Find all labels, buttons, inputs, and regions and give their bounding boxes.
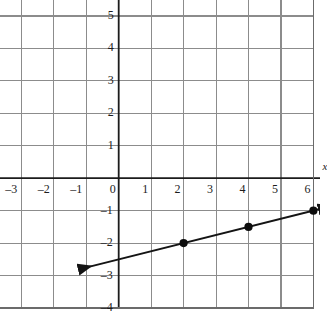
- x-tick-label--2: –2: [38, 183, 50, 195]
- x-tick-label-1: 1: [142, 183, 148, 195]
- x-tick-label--3: –3: [5, 183, 17, 195]
- y-tick-label--4: –4: [101, 301, 113, 313]
- x-tick-label-0: 0: [110, 183, 116, 195]
- x-axis-label: x: [322, 161, 327, 172]
- y-tick-label--1: –1: [101, 204, 113, 216]
- x-tick-label-2: 2: [175, 183, 181, 195]
- axis-lines: [0, 0, 320, 308]
- y-tick-label--2: –2: [101, 236, 113, 248]
- y-tick-label-1: 1: [108, 139, 114, 151]
- x-tick-label-3: 3: [207, 183, 213, 195]
- x-tick-label-5: 5: [272, 183, 278, 195]
- x-tick-label-6: 6: [304, 183, 310, 195]
- y-tick-label--3: –3: [101, 269, 113, 281]
- y-tick-label-3: 3: [108, 74, 114, 86]
- x-tick-label-4: 4: [240, 183, 246, 195]
- x-tick-label--1: –1: [70, 183, 82, 195]
- y-tick-label-5: 5: [108, 9, 114, 21]
- plotted-line: [80, 209, 320, 269]
- y-tick-label-2: 2: [108, 106, 114, 118]
- grid-lines: [0, 0, 313, 308]
- y-tick-label-4: 4: [108, 41, 114, 53]
- grid-border: [0, 0, 313, 308]
